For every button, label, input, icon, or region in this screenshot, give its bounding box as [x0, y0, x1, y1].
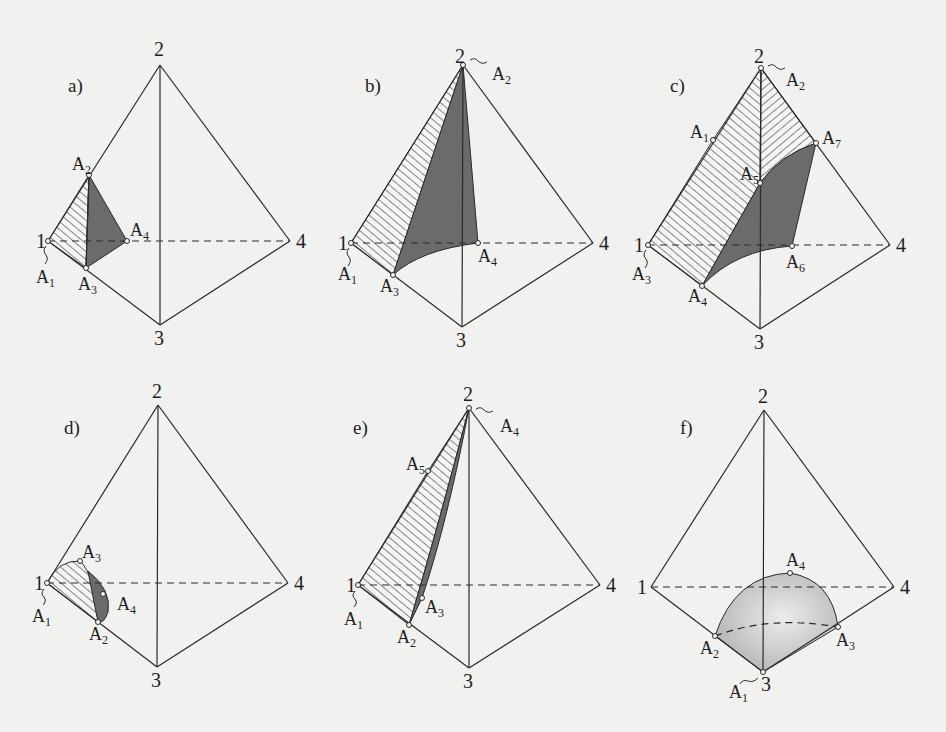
point-a4: [101, 592, 106, 597]
point-a1: [356, 583, 361, 588]
panel-d: d) 2 1 4 3 A1 A3 A4 A2: [32, 380, 304, 691]
label-a4: A4: [478, 246, 497, 269]
vertex-3: 3: [463, 670, 473, 692]
vertex-3: 3: [761, 673, 771, 695]
panel-b: b) 2 1 4 3 A1 A2 A3 A4: [338, 45, 609, 351]
vertex-3: 3: [154, 327, 164, 349]
edge-3-4: [469, 585, 600, 668]
vertex-2: 2: [154, 38, 164, 60]
panel-label-d: d): [64, 417, 80, 439]
vertex-1: 1: [637, 576, 647, 598]
label-a2: A2: [786, 70, 805, 93]
vertex-1: 1: [346, 574, 356, 596]
panel-f: f) 2 1 4 3 A4 A2 A3 A1: [637, 385, 910, 705]
label-a3: A3: [836, 630, 855, 653]
point-a1: [349, 241, 354, 246]
tetrahedra-figure: a) 2 1 4 3 A1 A2 A3 A4 b): [0, 0, 946, 732]
label-a3: A3: [632, 264, 651, 287]
vertex-3: 3: [754, 331, 764, 353]
point-a4: [467, 406, 472, 411]
label-a6: A6: [786, 252, 805, 275]
point-a5: [426, 469, 431, 474]
point-a3: [836, 625, 841, 630]
label-a2: A2: [700, 638, 719, 661]
edge-2-3: [157, 405, 158, 667]
point-a4: [476, 241, 481, 246]
panel-a: a) 2 1 4 3 A1 A2 A3 A4: [36, 38, 306, 349]
label-a3: A3: [380, 276, 399, 299]
hatched-face-a: [48, 175, 89, 268]
vertex-2: 2: [455, 45, 465, 67]
label-a2: A2: [397, 627, 416, 650]
label-a1: A1: [344, 609, 363, 632]
vertex-4: 4: [296, 230, 306, 252]
label-a1: A1: [729, 682, 748, 705]
vertex-3: 3: [151, 669, 161, 691]
point-a1: [45, 581, 50, 586]
label-a2: A2: [492, 64, 511, 87]
edge-3-4: [157, 583, 288, 667]
label-a1: A1: [690, 122, 709, 145]
point-a3: [84, 266, 89, 271]
edge-3-4: [160, 241, 290, 325]
point-a4: [125, 239, 130, 244]
point-a2: [713, 634, 718, 639]
edge-2-4: [469, 408, 600, 585]
panel-c: c) 2 1 4 3 A2 A1 A7 A5 A6 A3 A4: [632, 45, 906, 353]
squiggle-arrow: [740, 678, 758, 684]
point-a4: [788, 571, 793, 576]
panel-label-c: c): [670, 75, 685, 97]
label-a7: A7: [822, 128, 841, 151]
label-a3: A3: [78, 274, 97, 297]
edge-2-4: [158, 405, 288, 583]
vertex-3: 3: [456, 329, 466, 351]
hatched-face-e: [358, 408, 469, 625]
label-a4: A4: [786, 550, 805, 573]
point-a1: [46, 239, 51, 244]
squiggle-arrow: [470, 59, 487, 64]
vertex-1: 1: [338, 232, 348, 254]
label-a3: A3: [425, 597, 444, 620]
vertex-4: 4: [599, 232, 609, 254]
panel-label-f: f): [680, 417, 693, 439]
label-a4: A4: [117, 594, 136, 617]
point-a3: [420, 596, 425, 601]
squiggle-arrow: [768, 65, 785, 70]
label-a5: A5: [406, 454, 425, 477]
vertex-4: 4: [900, 576, 910, 598]
vertex-2: 2: [463, 383, 473, 405]
edge-2-4: [764, 410, 894, 587]
vertex-2: 2: [758, 385, 768, 407]
point-a6: [790, 244, 795, 249]
edge-3-4: [760, 245, 890, 329]
edge-2-4: [463, 65, 593, 243]
vertex-4: 4: [294, 572, 304, 594]
shaded-face-a: [86, 175, 127, 268]
label-a4: A4: [130, 220, 149, 243]
label-a4: A4: [688, 286, 707, 309]
label-a1: A1: [338, 264, 357, 287]
panel-label-a: a): [68, 75, 83, 97]
label-a2: A2: [72, 154, 91, 177]
edge-1-2: [651, 410, 764, 587]
panel-label-b: b): [365, 75, 381, 97]
label-a3: A3: [82, 542, 101, 565]
vertex-1: 1: [634, 234, 644, 256]
point-a3: [646, 243, 651, 248]
vertex-2: 2: [152, 380, 162, 402]
vertex-4: 4: [896, 234, 906, 256]
label-a1: A1: [32, 606, 51, 629]
label-a4: A4: [500, 416, 519, 439]
edge-2-4: [160, 65, 290, 241]
vertex-4: 4: [606, 574, 616, 596]
point-a7: [814, 141, 819, 146]
squiggle-arrow: [476, 408, 493, 413]
panel-label-e: e): [353, 417, 368, 439]
label-a1: A1: [36, 267, 55, 290]
vertex-2: 2: [754, 45, 764, 67]
point-a1: [711, 138, 716, 143]
panel-e: e) 2 1 4 3 A4 A5 A3 A1 A2: [344, 383, 616, 692]
